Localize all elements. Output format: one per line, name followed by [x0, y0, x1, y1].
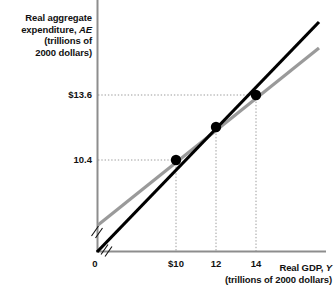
x-tick-label-origin: 0: [78, 258, 112, 269]
x-axis-title-main: Real GDP,: [279, 262, 325, 273]
x-tick-label-10: $10: [157, 258, 195, 269]
y-axis-title-ae-symbol: AE: [79, 24, 92, 35]
marker-point-12: [211, 122, 221, 132]
x-tick-label-14: 14: [239, 258, 273, 269]
x-tick-label-12: 12: [199, 258, 233, 269]
x-axis-title-y-symbol: Y: [326, 262, 332, 273]
y-axis-title: Real aggregate expenditure, AE (trillion…: [6, 12, 92, 58]
y-axis-title-line2: expenditure,: [21, 24, 79, 35]
y-axis-title-line3: (trillions of: [44, 35, 92, 46]
forty-five-degree-line: [97, 22, 319, 252]
marker-point-10: [171, 155, 181, 165]
y-tick-label-13-6: $13.6: [22, 89, 92, 100]
x-axis-title-units: (trillions of 2000 dollars): [225, 274, 332, 285]
marker-point-14: [251, 90, 261, 100]
y-axis-title-line1: Real aggregate: [25, 12, 92, 23]
y-axis-title-line4: 2000 dollars): [35, 47, 92, 58]
y-tick-label-10-4: 10.4: [22, 154, 92, 165]
keynesian-cross-chart: Real aggregate expenditure, AE (trillion…: [0, 0, 335, 304]
